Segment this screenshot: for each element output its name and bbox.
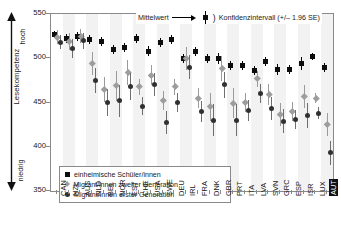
data-point-marker <box>70 46 75 51</box>
y-axis-pole-high: hoch <box>18 17 27 57</box>
y-tick-label: 500 <box>18 52 46 61</box>
data-point-marker <box>122 45 127 50</box>
x-tick-mark <box>209 190 210 194</box>
data-point-marker <box>134 36 139 41</box>
y-tick-label: 450 <box>18 97 46 106</box>
ci-sample-icon <box>201 11 210 24</box>
data-point-marker <box>275 67 280 72</box>
x-tick-mark <box>150 190 151 194</box>
legend-ci-label: Konfidenzintervall (+/– 1.96 SE) <box>219 13 320 22</box>
x-tick-mark <box>103 190 104 194</box>
y-tick-label: 350 <box>18 185 46 194</box>
data-point-marker <box>58 40 63 45</box>
data-point-marker <box>228 63 233 68</box>
legend-item-label: einheimische Schüler/innen <box>74 171 161 179</box>
legend-item: einheimische Schüler/innen <box>64 170 226 180</box>
x-tick-label-aut: AUT <box>329 179 338 196</box>
data-point-marker <box>169 37 174 42</box>
data-point-marker <box>310 54 315 59</box>
data-point-marker <box>287 67 292 72</box>
x-tick-mark <box>138 190 139 194</box>
x-tick-mark <box>185 190 186 194</box>
data-point-marker <box>234 118 239 123</box>
data-point-marker <box>258 91 263 96</box>
x-tick-mark <box>279 190 280 194</box>
data-point-marker <box>240 63 245 68</box>
x-tick-mark <box>303 190 304 194</box>
data-point-marker <box>322 65 327 70</box>
data-point-marker <box>293 117 298 122</box>
chart-root: Lesekompetenz hoch niedrig 5505004504003… <box>0 0 341 240</box>
data-point-marker <box>281 119 286 124</box>
arrow-right-icon <box>172 14 198 21</box>
data-point-marker <box>199 109 204 114</box>
x-tick-mark <box>326 190 327 194</box>
background-bands <box>51 14 333 191</box>
x-tick-mark <box>220 190 221 194</box>
data-point-marker <box>146 49 151 54</box>
data-point-marker <box>140 104 145 109</box>
data-point-marker <box>316 111 321 116</box>
x-tick-mark <box>115 190 116 194</box>
legend-mean-label: Mittelwert <box>138 13 169 22</box>
x-tick-mark <box>256 190 257 194</box>
background-band <box>180 14 192 191</box>
data-point-marker <box>193 49 198 54</box>
data-point-marker <box>93 78 98 83</box>
x-tick-mark <box>232 190 233 194</box>
data-point-marker <box>246 108 251 113</box>
data-point-marker <box>99 39 104 44</box>
x-tick-mark <box>173 190 174 194</box>
x-tick-mark <box>244 190 245 194</box>
y-tick-label: 400 <box>18 141 46 150</box>
x-tick-mark <box>267 190 268 194</box>
background-band <box>321 14 333 191</box>
x-tick-mark <box>314 190 315 194</box>
data-point-marker <box>205 56 210 61</box>
legend-paren: ) <box>213 13 216 23</box>
x-tick-mark <box>126 190 127 194</box>
x-tick-mark <box>291 190 292 194</box>
data-point-marker <box>305 113 310 118</box>
data-point-marker <box>211 118 216 123</box>
x-tick-mark <box>162 190 163 194</box>
x-tick-mark <box>79 190 80 194</box>
x-tick-mark <box>56 190 57 194</box>
data-point-marker <box>111 47 116 52</box>
x-tick-mark <box>91 190 92 194</box>
data-point-marker <box>117 98 122 103</box>
square-marker-icon <box>65 172 70 177</box>
data-point-marker <box>158 40 163 45</box>
data-point-marker <box>164 120 169 125</box>
data-point-marker <box>299 61 304 66</box>
x-tick-mark <box>197 190 198 194</box>
background-band <box>251 14 263 191</box>
data-point-marker <box>105 100 110 105</box>
data-point-marker <box>187 65 192 70</box>
data-point-marker <box>263 59 268 64</box>
x-tick-mark <box>68 190 69 194</box>
y-tick-label: 550 <box>18 8 46 17</box>
data-point-marker <box>87 37 92 42</box>
legend-confidence-interval: Mittelwert ) Konfidenzintervall (+/– 1.9… <box>136 11 322 24</box>
